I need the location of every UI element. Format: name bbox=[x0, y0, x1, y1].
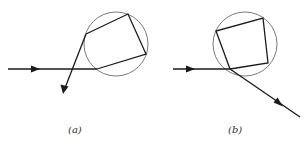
incoming-arrow-icon-a bbox=[31, 66, 40, 73]
droplet-circle-a bbox=[84, 12, 148, 76]
exit-ray-a bbox=[65, 34, 86, 88]
panel-a bbox=[8, 12, 148, 94]
internal-path-a bbox=[86, 14, 146, 69]
ray-diagram bbox=[0, 0, 306, 154]
incoming-arrow-icon-b bbox=[186, 66, 195, 73]
exit-arrow-icon-a bbox=[61, 85, 69, 95]
caption-b: (b) bbox=[228, 124, 242, 135]
panel-b bbox=[173, 12, 300, 117]
exit-arrow-icon-b bbox=[274, 98, 284, 107]
exit-ray-b bbox=[230, 69, 300, 117]
internal-path-b bbox=[216, 18, 268, 69]
caption-a: (a) bbox=[68, 124, 82, 135]
